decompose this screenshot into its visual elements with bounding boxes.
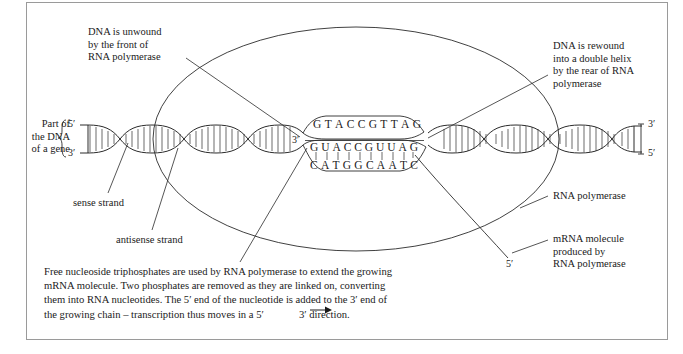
seq-letter: U xyxy=(387,141,395,153)
seq-letter: C xyxy=(347,118,355,130)
dna-helix-right xyxy=(428,125,642,153)
dna-helix-left xyxy=(80,125,303,153)
seq-letter: C xyxy=(354,141,362,153)
annotation-dna-unwound: DNA is unwound by the front of RNA polym… xyxy=(88,26,208,64)
right-end-bracket xyxy=(638,124,644,154)
seq-letter: G xyxy=(354,159,362,171)
seq-letter: T xyxy=(332,159,339,171)
seq-letter: G xyxy=(365,141,373,153)
caption-line-3: them into RNA nucleotides. The 5′ end of… xyxy=(44,293,544,307)
seq-letter: A xyxy=(332,141,340,153)
end-label-right-bottom: 5′ xyxy=(648,147,655,158)
seq-letter: C xyxy=(410,159,418,171)
caption-line-2: mRNA molecule. Two phosphates are remove… xyxy=(44,279,544,293)
seq-letter: C xyxy=(358,118,366,130)
seq-letter: A xyxy=(401,118,409,130)
seq-letter: G xyxy=(343,159,351,171)
mrna-transcript-sequence: G U A C C G U U A G xyxy=(310,141,418,153)
annotation-sense-strand: sense strand xyxy=(73,197,124,210)
seq-letter: U xyxy=(321,141,329,153)
end-label-left-bottom: 3′ xyxy=(68,147,75,158)
figure-caption: Free nucleoside triphosphates are used b… xyxy=(44,265,544,322)
seq-letter: G xyxy=(310,141,318,153)
end-label-right-top: 3′ xyxy=(648,118,655,129)
seq-letter: T xyxy=(391,118,398,130)
annotation-antisense-strand: antisense strand xyxy=(116,234,183,247)
seq-letter: A xyxy=(398,141,406,153)
seq-letter: T xyxy=(380,118,387,130)
seq-letter: G xyxy=(313,118,321,130)
seq-letter: A xyxy=(335,118,343,130)
template-strand-sequence: C A T G G C A A T C xyxy=(310,159,418,171)
caption-line-1: Free nucleoside triphosphates are used b… xyxy=(44,265,544,279)
seq-letter: A xyxy=(388,159,396,171)
end-label-left-top: 5′ xyxy=(68,118,75,129)
seq-letter: G xyxy=(413,118,421,130)
caption-line-4-after-arrow: 3′ direction. xyxy=(299,309,350,320)
seq-letter: C xyxy=(344,141,352,153)
annotation-rna-polymerase: RNA polymerase xyxy=(553,190,626,203)
caption-line-4: the growing chain – transcription thus m… xyxy=(44,308,544,322)
seq-letter: A xyxy=(321,159,329,171)
caption-line-4-before-arrow: the growing chain – transcription thus m… xyxy=(44,309,264,320)
sense-strand-sequence: G T A C C G T T A G xyxy=(313,118,421,130)
template-3prime-label: 3′ xyxy=(292,134,299,145)
seq-letter: G xyxy=(410,141,418,153)
seq-letter: T xyxy=(400,159,407,171)
figure-canvas: Part of the DNA of a gene 5′ 3′ 3′ 5′ 3′… xyxy=(0,0,683,354)
part-of-dna-label: Part of the DNA of a gene xyxy=(18,118,70,156)
seq-letter: T xyxy=(325,118,332,130)
seq-letter: C xyxy=(366,159,374,171)
seq-letter: G xyxy=(369,118,377,130)
seq-letter: C xyxy=(310,159,318,171)
annotation-dna-rewound: DNA is rewound into a double helix by th… xyxy=(553,40,675,90)
seq-letter: U xyxy=(376,141,384,153)
seq-letter: A xyxy=(377,159,385,171)
annotation-mrna-molecule: mRNA molecule produced by RNA polymerase xyxy=(553,233,675,271)
